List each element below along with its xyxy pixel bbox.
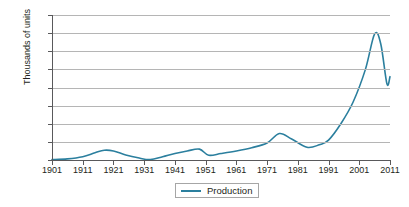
legend-label-production: Production <box>207 185 252 196</box>
y-axis-tick-mark <box>48 106 52 107</box>
gridline <box>52 142 390 143</box>
x-axis-tick-mark <box>52 161 53 165</box>
y-axis-title: Thousands of units <box>22 0 32 122</box>
x-axis-tick-mark <box>236 161 237 165</box>
legend-swatch-production <box>181 190 201 192</box>
x-axis-tick-mark <box>390 161 391 165</box>
y-axis-line <box>52 15 53 161</box>
y-axis-tick-mark <box>48 33 52 34</box>
gridline <box>52 15 390 16</box>
gridline <box>52 124 390 125</box>
x-axis-tick-mark <box>329 161 330 165</box>
x-axis-tick-label: 2011 <box>370 165 409 175</box>
x-axis-tick-mark <box>144 161 145 165</box>
x-axis-tick-mark <box>206 161 207 165</box>
x-axis-tick-mark <box>298 161 299 165</box>
gridline <box>52 33 390 34</box>
gridline <box>52 106 390 107</box>
y-axis-tick-mark <box>48 51 52 52</box>
x-axis-tick-mark <box>267 161 268 165</box>
x-axis-line <box>52 160 391 161</box>
y-axis-tick-mark <box>48 15 52 16</box>
legend[interactable]: Production <box>175 183 259 198</box>
x-axis-tick-mark <box>175 161 176 165</box>
x-axis-tick-mark <box>113 161 114 165</box>
gridline <box>52 51 390 52</box>
y-axis-tick-mark <box>48 69 52 70</box>
x-axis-tick-mark <box>83 161 84 165</box>
y-axis-tick-mark <box>48 142 52 143</box>
plot-area <box>52 15 390 160</box>
gridline <box>52 69 390 70</box>
y-axis-tick-mark <box>48 88 52 89</box>
y-axis-tick-mark <box>48 124 52 125</box>
chart-container: Thousands of units 400.0350.0300.0250.02… <box>0 0 409 207</box>
x-axis-tick-mark <box>359 161 360 165</box>
gridline <box>52 88 390 89</box>
